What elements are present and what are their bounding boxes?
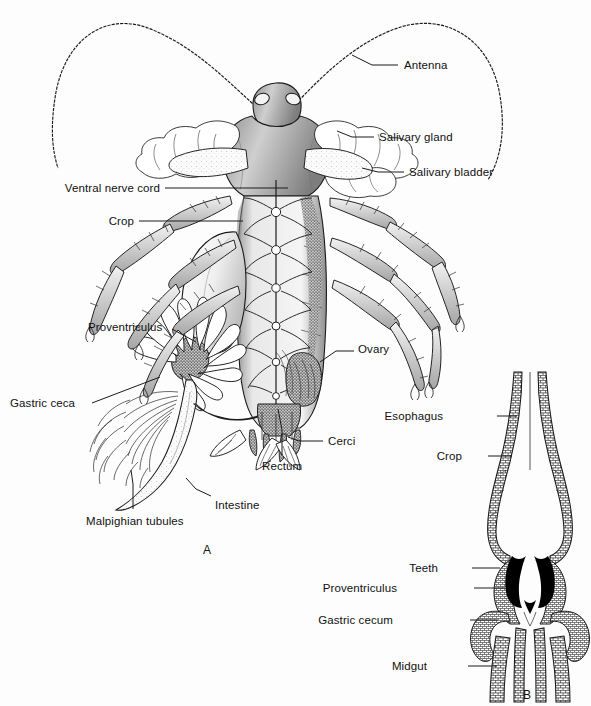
label-antenna: Antenna [404, 60, 448, 72]
panel-a-caption: A [203, 543, 211, 557]
panel-b-caption: B [523, 688, 531, 702]
label-ventral_nerve_cord: Ventral nerve cord [0, 183, 160, 195]
label-ovary: Ovary [358, 344, 389, 356]
label-intestine: Intestine [215, 500, 259, 512]
label-gastric_cecum: Gastric cecum [0, 615, 393, 627]
label-rectum: Rectum [262, 461, 302, 473]
label-gastric_ceca: Gastric ceca [10, 398, 75, 410]
label-proventriculus_b: Proventriculus [0, 583, 397, 595]
label-crop: Crop [0, 216, 134, 228]
label-salivary_gland: Salivary gland [379, 132, 453, 144]
label-malpighian_tubules: Malpighian tubules [86, 516, 184, 528]
label-proventriculus: Proventriculus [88, 322, 162, 334]
label-salivary_bladder: Salivary bladder [409, 167, 493, 179]
label-esophagus: Esophagus [0, 411, 443, 423]
label-cerci: Cerci [328, 436, 355, 448]
label-teeth: Teeth [0, 563, 438, 575]
cockroach-anatomy-plate [0, 0, 591, 706]
label-crop_b: Crop [0, 451, 462, 463]
label-midgut: Midgut [0, 661, 427, 673]
